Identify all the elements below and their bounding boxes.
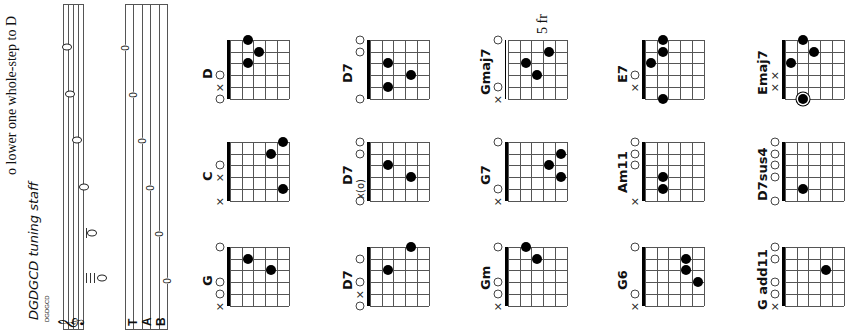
open-string-icon xyxy=(216,71,225,80)
open-string-icon xyxy=(356,278,365,287)
open-string-icon xyxy=(356,36,365,45)
tab-label-t: T xyxy=(126,319,140,326)
muted-string-icon: × xyxy=(493,300,502,311)
open-string-icon xyxy=(356,47,365,56)
finger-dot-icon xyxy=(821,265,831,275)
finger-dot-icon xyxy=(266,265,276,275)
finger-dot-icon xyxy=(532,254,542,264)
finger-dot-icon xyxy=(383,265,393,275)
open-string-icon xyxy=(771,138,780,147)
open-string-icon xyxy=(494,289,503,298)
open-string-icon xyxy=(631,289,640,298)
finger-dot-icon xyxy=(556,172,566,182)
muted-string-icon: × xyxy=(630,81,639,92)
chord-name: Emaj7 xyxy=(755,50,770,95)
finger-dot-icon xyxy=(383,82,393,92)
header-text: o lower one whole-step to D xyxy=(4,16,20,175)
muted-string-icon: × xyxy=(630,300,639,311)
chord-name: Gmaj7 xyxy=(478,49,493,96)
tab-number: 0 xyxy=(137,138,148,144)
open-string-icon xyxy=(631,138,640,147)
open-string-icon xyxy=(494,184,503,193)
finger-dot-icon xyxy=(544,160,554,170)
tuning-small-label: DGDGCD xyxy=(44,295,50,322)
finger-dot-icon xyxy=(521,242,531,252)
tab-number: 0 xyxy=(162,278,173,284)
finger-dot-icon xyxy=(383,160,393,170)
chord-nut xyxy=(505,40,506,99)
finger-dot-icon xyxy=(658,47,668,57)
staff-note xyxy=(87,230,97,237)
chord-name: D7 xyxy=(340,63,355,83)
chord-name: Gm xyxy=(478,266,493,290)
finger-dot-icon xyxy=(681,265,691,275)
finger-dot-icon xyxy=(658,172,668,182)
finger-dot-icon xyxy=(278,137,288,147)
open-string-icon xyxy=(216,161,225,170)
chord-name: Am11 xyxy=(615,151,630,193)
finger-dot-icon xyxy=(406,70,416,80)
staff-note xyxy=(62,44,72,51)
open-string-icon xyxy=(494,36,503,45)
muted-string-icon: × xyxy=(215,172,224,183)
open-string-icon xyxy=(356,149,365,158)
open-string-icon xyxy=(494,82,503,91)
finger-dot-icon xyxy=(681,254,691,264)
finger-dot-icon xyxy=(658,184,668,194)
finger-dot-icon xyxy=(809,47,819,57)
finger-dot-icon xyxy=(786,58,796,68)
muted-string-icon: × xyxy=(215,81,224,92)
chord-name: D7 xyxy=(340,165,355,185)
muted-string-icon: × xyxy=(493,93,502,104)
open-string-icon xyxy=(494,138,503,147)
finger-dot-icon xyxy=(658,94,668,104)
tab-number: 0 xyxy=(120,45,131,51)
open-string-icon xyxy=(216,243,225,252)
finger-dot-icon xyxy=(383,58,393,68)
staff-note xyxy=(79,184,89,191)
open-string-icon xyxy=(771,254,780,263)
finger-dot-icon xyxy=(556,149,566,159)
tab-number: 0 xyxy=(154,231,165,237)
open-string-icon xyxy=(494,278,503,287)
finger-dot-icon xyxy=(406,172,416,182)
treble-clef-icon: 𝄞 xyxy=(58,317,83,330)
open-string-icon xyxy=(494,243,503,252)
finger-dot-icon xyxy=(278,184,288,194)
chord-name: D7 xyxy=(340,270,355,290)
open-string-icon xyxy=(356,254,365,263)
staff-note xyxy=(97,275,107,282)
open-string-icon xyxy=(216,278,225,287)
finger-dot-icon xyxy=(243,254,253,264)
chord-name: G7 xyxy=(478,165,493,185)
muted-string-icon: × xyxy=(493,195,502,206)
open-string-icon xyxy=(356,94,365,103)
tuning-title: DGDGCD tuning staff xyxy=(26,182,41,320)
tab-label-b: B xyxy=(154,317,168,326)
fret-position-label: 5 fr xyxy=(535,14,551,34)
open-string-icon xyxy=(771,243,780,252)
muted-string-icon: × xyxy=(770,70,779,81)
staff-note xyxy=(72,137,82,144)
finger-dot-icon xyxy=(532,70,542,80)
open-string-icon xyxy=(631,149,640,158)
muted-string-icon: × xyxy=(355,288,364,299)
open-string-icon xyxy=(771,278,780,287)
muted-string-icon: × xyxy=(215,195,224,206)
open-string-icon xyxy=(216,289,225,298)
finger-dot-icon xyxy=(798,35,808,45)
muted-string-icon: x(o) xyxy=(355,179,366,199)
chord-name: D7sus4 xyxy=(755,147,770,201)
chord-name: C xyxy=(200,172,215,182)
finger-dot-icon xyxy=(693,277,703,287)
chord-name: G xyxy=(200,275,215,286)
finger-dot-icon xyxy=(266,149,276,159)
finger-dot-icon xyxy=(798,94,808,104)
tab-number: 0 xyxy=(128,92,139,98)
chord-name: E7 xyxy=(615,65,630,83)
tab-label-a: A xyxy=(140,317,154,326)
open-string-icon xyxy=(771,173,780,182)
chord-name: D xyxy=(200,68,215,79)
finger-dot-icon xyxy=(254,47,264,57)
open-string-icon xyxy=(631,161,640,170)
